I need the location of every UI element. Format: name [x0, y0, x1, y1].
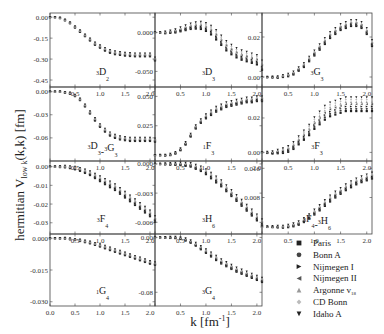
- y-tick-label: -0.08: [138, 289, 153, 297]
- panel-label: 3G3: [310, 66, 323, 82]
- x-tick-label: 1.0: [96, 309, 105, 317]
- x-tick-label: 1.5: [121, 164, 130, 172]
- y-tick-label: -0.30: [33, 56, 48, 64]
- x-tick-label: 0.5: [284, 164, 293, 172]
- panel-3G4: 0.51.01.52.00.00-0.083G4: [138, 234, 263, 317]
- legend-label: CD Bonn: [313, 297, 348, 307]
- x-tick-label: 1.0: [96, 90, 105, 98]
- x-tick-label: 0.5: [176, 90, 185, 98]
- panel-label: 3F3: [311, 140, 323, 156]
- y-tick-label: -0.015: [30, 267, 49, 275]
- y-tick-label: 0.00: [248, 74, 261, 82]
- x-tick-label: 0.5: [176, 309, 185, 317]
- panel-label: 3D3-3G3: [88, 140, 118, 158]
- x-tick-label: 1.5: [336, 90, 345, 98]
- panel-3D2: 0.51.01.52.00.00-0.15-0.30-0.453D2: [33, 13, 156, 98]
- y-axis-label-main: hermitian V: [12, 178, 27, 241]
- panel-3F4-3H6: 0.51.01.52.00.0160.0083F4-3H6: [244, 161, 373, 245]
- x-tick-label: 1.0: [96, 164, 105, 172]
- legend-item: Argonne v18: [297, 285, 357, 296]
- legend-label: Idaho A: [313, 309, 342, 319]
- series-group: [154, 21, 263, 71]
- legend-item: CD Bonn: [297, 297, 348, 307]
- y-tick-label: -0.050: [135, 68, 154, 76]
- y-tick-label: -0.03: [33, 111, 48, 119]
- y-tick-label: -0.45: [33, 77, 48, 85]
- y-tick-label: 0.00: [36, 163, 49, 171]
- y-tick-label: 0.025: [137, 122, 153, 130]
- y-tick-label: 0.00: [248, 149, 261, 157]
- x-tick-label: 1.0: [202, 90, 211, 98]
- x-tick-label: 0.5: [284, 90, 293, 98]
- x-tick-label: 2.0: [253, 309, 262, 317]
- panel-3G3: 0.51.01.52.00.020.003G3: [248, 13, 373, 98]
- y-tick-label: -0.15: [33, 35, 48, 43]
- y-axis-label: hermitian Vlow k(k,k) [fm]: [12, 109, 29, 241]
- x-tick-label: 1.5: [227, 90, 236, 98]
- y-tick-label: -0.03: [33, 219, 48, 227]
- panel-label: 3F4: [97, 213, 109, 229]
- legend-item: Nijmegen II: [297, 273, 357, 283]
- panel-label: 1F3: [203, 140, 215, 156]
- y-tick-label: 0.00: [36, 14, 49, 22]
- x-tick-label: 1.5: [336, 164, 345, 172]
- legend-label: Bonn A: [313, 250, 341, 260]
- x-tick-label: 1.0: [310, 90, 319, 98]
- y-tick-label: 0.02: [248, 114, 261, 122]
- x-tick-label: 0.5: [284, 237, 293, 245]
- panel-1F3: 0.51.01.52.00.0500.0251F3: [137, 87, 263, 172]
- legend-label: Nijmegen II: [313, 273, 357, 283]
- panel-3H6: 0.51.01.52.00.000-0.003-0.0063H6: [135, 160, 263, 245]
- panel-label: 3D3: [202, 66, 215, 82]
- panel-label: 3D2: [96, 66, 109, 82]
- x-tick-label: 2.0: [146, 309, 155, 317]
- series-group: [49, 16, 156, 62]
- y-tick-label: -0.06: [33, 134, 48, 142]
- panel-3D3: 0.51.01.52.00.000-0.0503D3: [135, 13, 263, 98]
- x-tick-label: 1.5: [336, 237, 345, 245]
- y-tick-label: -0.01: [33, 182, 48, 190]
- x-tick-label: 0.0: [46, 309, 55, 317]
- y-tick-label: 0.016: [244, 165, 260, 173]
- legend-item: Nijmegen I: [297, 262, 354, 272]
- legend-item: Idaho A: [297, 309, 343, 319]
- panel-3F3: 0.51.01.52.00.020.003F3: [248, 87, 373, 172]
- legend-label: Nijmegen I: [313, 262, 354, 272]
- y-tick-label: 0.008: [244, 194, 260, 202]
- x-tick-label: 0.5: [71, 309, 80, 317]
- x-tick-label: 1.5: [121, 90, 130, 98]
- legend-label: Argonne v18: [313, 285, 357, 296]
- panel-1G4: 0.00.51.01.52.00.000-0.015-0.0301G4: [30, 234, 156, 317]
- panel-3F4: 0.51.01.52.00.00-0.01-0.02-0.033F4: [33, 161, 156, 245]
- x-tick-label: 2.0: [362, 237, 371, 245]
- y-tick-label: -0.030: [30, 298, 49, 306]
- x-tick-label: 1.0: [310, 164, 319, 172]
- y-tick-label: 0.050: [137, 93, 153, 101]
- legend-label: Paris: [313, 238, 331, 248]
- panel-label: 1G4: [96, 285, 109, 301]
- y-tick-label: -0.02: [33, 201, 48, 209]
- x-axis-label: k [fm-1]: [190, 314, 230, 329]
- legend-item: Paris: [297, 238, 332, 248]
- x-tick-label: 1.5: [227, 237, 236, 245]
- y-tick-label: 0.00: [141, 234, 154, 242]
- y-tick-label: -0.006: [135, 219, 154, 227]
- x-tick-label: 1.5: [121, 309, 130, 317]
- y-tick-label: -0.003: [135, 190, 154, 198]
- y-tick-label: 0.00: [36, 88, 49, 96]
- x-tick-label: 1.5: [121, 237, 130, 245]
- y-tick-label: 0.02: [248, 34, 261, 42]
- y-tick-label: 0.000: [137, 160, 153, 168]
- y-tick-label: 0.000: [137, 29, 153, 37]
- legend-item: Bonn A: [297, 250, 342, 260]
- legend: ParisBonn ANijmegen INijmegen IIArgonne …: [297, 238, 357, 319]
- x-tick-label: 1.5: [227, 164, 236, 172]
- x-tick-label: 1.0: [202, 237, 211, 245]
- chart: 0.51.01.52.00.00-0.15-0.30-0.453D20.51.0…: [0, 0, 384, 334]
- y-tick-label: 0.000: [32, 235, 48, 243]
- panel-label: 3H6: [202, 213, 215, 229]
- panel-label: 3F4-3H6: [303, 213, 331, 231]
- panel-label: 3G4: [202, 285, 215, 301]
- x-tick-label: 2.0: [253, 237, 262, 245]
